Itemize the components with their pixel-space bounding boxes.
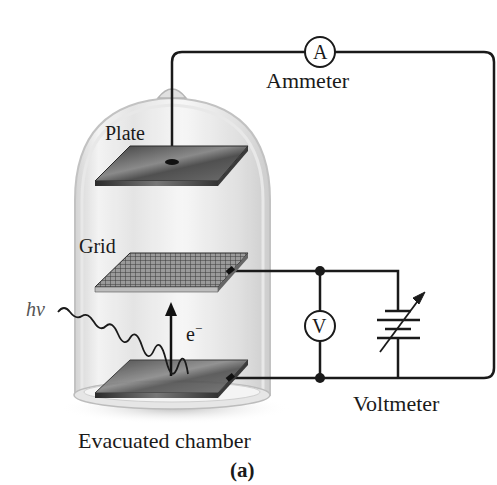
grid-label: Grid — [79, 236, 116, 256]
ammeter-symbol: A — [313, 42, 327, 62]
photon-label: hν — [26, 299, 45, 319]
junction-bottom — [315, 373, 325, 383]
plate-label: Plate — [105, 123, 145, 143]
junction-top — [315, 266, 325, 276]
electron-label: e− — [186, 322, 202, 344]
voltmeter-label: Voltmeter — [353, 393, 439, 415]
variable-battery-icon — [377, 292, 425, 352]
figure-caption: (a) — [230, 460, 255, 481]
electron-symbol: e — [186, 323, 195, 345]
chamber-label: Evacuated chamber — [78, 430, 251, 452]
ammeter-label: Ammeter — [266, 70, 349, 92]
electron-charge: − — [195, 321, 202, 336]
voltmeter-symbol: V — [312, 316, 326, 336]
